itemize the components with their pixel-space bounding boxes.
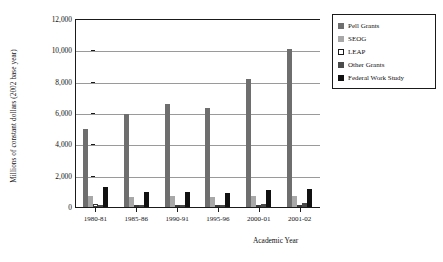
legend-item[interactable]: LEAP [338, 45, 431, 58]
bar-group [116, 19, 157, 207]
bar [103, 187, 108, 207]
y-axis-tick-label: 0 [26, 203, 72, 212]
x-axis-tick-mark [300, 208, 301, 212]
bar [225, 193, 230, 207]
y-axis-tick-label: 2,000 [26, 171, 72, 180]
legend-item[interactable]: SEOG [338, 32, 431, 45]
y-axis-tick-label: 8,000 [26, 77, 72, 86]
y-axis-tick-label: 6,000 [26, 109, 72, 118]
x-axis-tick-mark [95, 208, 96, 212]
legend-swatch-icon [338, 36, 344, 42]
y-axis-title: Millions of constant dollars (2002 base … [10, 16, 18, 216]
legend-item[interactable]: Pell Grants [338, 19, 431, 32]
bar [287, 49, 292, 207]
x-axis-line [75, 207, 320, 208]
bar [246, 79, 251, 207]
x-axis-tick-mark [177, 208, 178, 212]
legend-label: Other Grants [348, 61, 384, 69]
bar-group [279, 19, 320, 207]
legend-item[interactable]: Federal Work Study [338, 71, 431, 84]
x-axis-tick-mark [259, 208, 260, 212]
legend-item[interactable]: Other Grants [338, 58, 431, 71]
legend-label: LEAP [348, 48, 366, 56]
legend-label: SEOG [348, 35, 366, 43]
legend-swatch-icon [338, 23, 344, 29]
bar-group [198, 19, 239, 207]
legend-swatch-icon [338, 75, 344, 81]
bar-groups [75, 19, 320, 207]
legend: Pell GrantsSEOGLEAPOther GrantsFederal W… [332, 14, 436, 89]
bar [266, 190, 271, 207]
bar-group [75, 19, 116, 207]
x-axis-tick-label: 2001-02 [270, 215, 330, 223]
bar [165, 104, 170, 207]
bar [124, 114, 129, 207]
x-axis-tick-mark [136, 208, 137, 212]
bar-chart: Millions of constant dollars (2002 base … [0, 0, 443, 262]
y-axis-tick-label: 4,000 [26, 140, 72, 149]
y-axis-tick-label: 12,000 [26, 15, 72, 24]
x-axis-title: Academic Year [253, 236, 298, 245]
x-axis-tick-mark [218, 208, 219, 212]
y-axis-tick-label: 10,000 [26, 46, 72, 55]
legend-label: Federal Work Study [348, 74, 404, 82]
bar [185, 192, 190, 207]
y-axis-tick-labels: 02,0004,0006,0008,00010,00012,000 [20, 19, 72, 207]
legend-swatch-icon [338, 62, 344, 68]
bar-group [157, 19, 198, 207]
legend-label: Pell Grants [348, 22, 379, 30]
legend-swatch-icon [338, 49, 344, 55]
bar-group [238, 19, 279, 207]
bar [144, 192, 149, 207]
bar [205, 108, 210, 207]
bar [307, 189, 312, 207]
